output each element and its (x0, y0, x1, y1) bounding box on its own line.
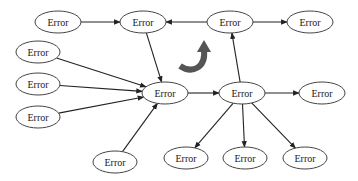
node-r: Error (219, 82, 265, 104)
node-l2: Error (16, 73, 60, 95)
edge-r-to-b2 (195, 103, 234, 148)
node-n1: Error (35, 11, 81, 33)
node-label: Error (47, 17, 69, 28)
node-label: Error (299, 17, 321, 28)
node-r2: Error (299, 82, 345, 104)
edge-r-to-b3 (243, 104, 245, 147)
node-b1: Error (93, 151, 137, 173)
node-b2: Error (164, 147, 208, 169)
node-n2: Error (120, 11, 166, 33)
edge-l2-to-c (60, 86, 142, 92)
node-label: Error (231, 88, 253, 99)
node-label: Error (27, 79, 49, 90)
node-label: Error (294, 153, 316, 164)
edge-l1-to-c (56, 58, 145, 87)
edge-n2-to-c (146, 33, 161, 82)
node-label: Error (234, 153, 256, 164)
node-label: Error (27, 112, 49, 123)
node-b4: Error (283, 147, 327, 169)
node-layer: ErrorErrorErrorErrorErrorErrorErrorError… (16, 11, 345, 173)
error-propagation-diagram: ErrorErrorErrorErrorErrorErrorErrorError… (0, 0, 358, 181)
edge-l3-to-c (59, 97, 144, 113)
node-n3: Error (207, 11, 253, 33)
node-label: Error (104, 157, 126, 168)
node-n4: Error (287, 11, 333, 33)
node-label: Error (311, 88, 333, 99)
node-b3: Error (223, 147, 267, 169)
node-label: Error (219, 17, 241, 28)
edge-r-to-b4 (252, 103, 296, 148)
node-label: Error (175, 153, 197, 164)
edge-b1-to-c (122, 103, 157, 151)
node-l1: Error (16, 41, 60, 63)
node-label: Error (154, 88, 176, 99)
node-label: Error (132, 17, 154, 28)
curved-arrow-icon (180, 40, 211, 69)
edge-r-to-n3 (232, 33, 240, 82)
node-label: Error (27, 47, 49, 58)
node-l3: Error (16, 106, 60, 128)
node-c: Error (142, 82, 188, 104)
